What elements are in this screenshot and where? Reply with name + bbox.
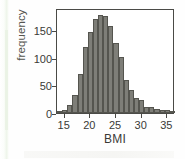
x-axis-tick-mark — [166, 114, 167, 118]
histogram-bars — [57, 10, 173, 113]
x-axis-tick-mark — [64, 114, 65, 118]
x-axis-tick-mark — [89, 114, 90, 118]
y-axis-tick-mark — [52, 31, 56, 32]
y-axis-tick-mark — [52, 114, 56, 115]
y-axis-tick-mark — [52, 59, 56, 60]
page-edge-shadow — [5, 30, 8, 130]
caption-ghost — [24, 151, 174, 158]
x-axis-tick-mark — [115, 114, 116, 118]
x-axis-tick: 35 — [154, 119, 178, 131]
y-axis-tick: 100 — [26, 54, 52, 64]
y-axis-tick-labels: 050100150 — [26, 0, 52, 159]
x-axis-tick: 25 — [103, 119, 127, 131]
x-axis-tick-mark — [141, 114, 142, 118]
plot-area — [56, 9, 174, 114]
x-axis-label: BMI — [56, 132, 174, 146]
y-axis-tick-mark — [52, 86, 56, 87]
x-axis-tick: 30 — [129, 119, 153, 131]
x-axis-tick: 20 — [77, 119, 101, 131]
figure-root: frequency 050100150 BMI 1520253035 — [0, 0, 185, 159]
y-axis-tick: 0 — [26, 109, 52, 119]
y-axis-tick: 150 — [26, 26, 52, 36]
y-axis-tick: 50 — [26, 81, 52, 91]
histogram-bar — [170, 111, 175, 113]
x-axis-tick: 15 — [52, 119, 76, 131]
